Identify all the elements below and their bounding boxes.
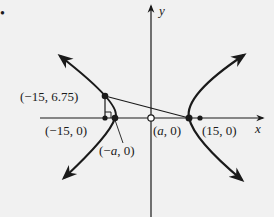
label-neg15-6.75: (−15, 6.75) (20, 89, 78, 104)
label-neg15-0: (−15, 0) (45, 123, 87, 138)
distance-line (105, 96, 189, 118)
y-axis-label: y (157, 3, 165, 18)
point-vertex-right (186, 115, 193, 122)
hyperbola-left-branch (60, 56, 116, 178)
label-neg-a-0: (−a, 0) (99, 143, 135, 158)
label-15-0: (15, 0) (202, 123, 237, 138)
point-neg15-6.75 (102, 93, 109, 100)
bullet-mark: • (0, 6, 5, 21)
point-a-0-open (148, 115, 154, 121)
point-neg15-0 (102, 115, 107, 120)
point-15-0 (197, 115, 202, 120)
x-axis-label: x (254, 121, 261, 136)
hyperbola-diagram: • y x (−15, 6.75) (−15, 0) (−a, 0) (a, 0… (0, 0, 274, 217)
leader-line (115, 120, 123, 143)
label-a-0: (a, 0) (153, 123, 181, 138)
point-neg-a-0 (112, 115, 119, 122)
